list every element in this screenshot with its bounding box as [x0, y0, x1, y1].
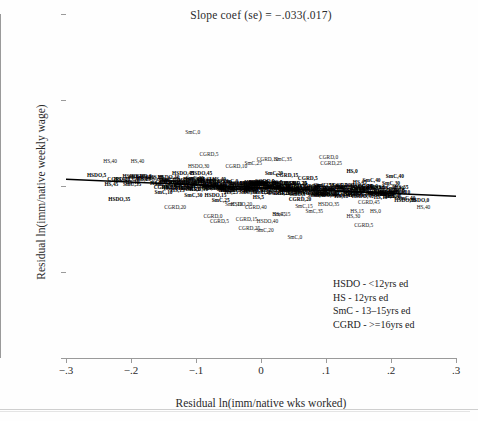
scatter-point-label: CGRD,25	[212, 184, 235, 190]
scatter-point-label: CGRD,5	[210, 219, 229, 225]
scatter-point-label: HSDO,35	[108, 197, 130, 203]
scatter-point-label: CGRD,5	[199, 152, 218, 158]
scatter-point-label: HS,40	[103, 159, 117, 165]
x-tick-label: .3	[436, 364, 476, 376]
scatter-point-label: SmC,30	[240, 187, 258, 193]
x-tick	[66, 358, 67, 363]
legend-item-hs: HS - 12yrs ed	[333, 291, 415, 305]
scatter-point-label: SmC,35	[306, 209, 324, 215]
scatter-point-label: CGRD,5	[354, 223, 373, 229]
chart-title: Slope coef (se) = −.033(.017)	[0, 9, 478, 21]
x-tick	[391, 358, 392, 363]
scatter-point-label: HS,0	[346, 169, 357, 175]
y-tick	[61, 186, 66, 187]
scatter-point-label: HS,40	[131, 159, 145, 165]
scatter-point-label: HS,40	[417, 206, 431, 212]
scatter-point-label: HS,45	[104, 183, 118, 189]
y-tick	[61, 272, 66, 273]
scatter-point-label: SmC,40	[397, 196, 415, 202]
figure-page: Slope coef (se) = −.033(.017) Residual l…	[0, 0, 478, 421]
scatter-point-label: SmC,40	[250, 182, 268, 188]
scatter-point-label: SmC,30	[184, 194, 202, 200]
scatter-point-label: HS,30	[346, 214, 360, 220]
scatter-point-label: SmC,35	[123, 182, 141, 188]
scatter-point-label: SmC,25	[244, 161, 262, 167]
legend-item-cgrd: CGRD - >=16yrs ed	[333, 318, 415, 332]
x-tick	[326, 358, 327, 363]
scatter-point-label: CGRD,25	[320, 161, 342, 167]
x-axis-label: Residual ln(imm/native wks worked)	[66, 397, 456, 409]
scatter-point-label: SmC,0	[185, 130, 200, 136]
scatter-point-label: HS,40	[114, 177, 128, 183]
scatter-point-label: SmC,0	[303, 185, 318, 191]
x-tick-label: −.2	[111, 364, 151, 376]
x-tick-label: .2	[371, 364, 411, 376]
scatter-point-label: HSDO,30	[315, 193, 337, 199]
scatter-point-label: SmC,0	[287, 235, 302, 241]
x-tick	[131, 358, 132, 363]
scatter-point-label: SmC,20	[256, 228, 274, 234]
x-tick-label: .1	[306, 364, 346, 376]
scatter-point-label: SmC,35	[160, 177, 178, 183]
scatter-point-label: CGRD,35	[165, 184, 188, 190]
scatter-point-label: SmC,10	[225, 202, 243, 208]
scatter-point-label: CGRD,15	[276, 173, 299, 179]
scatter-point-label: CGRD,45	[358, 200, 380, 206]
y-axis-label: Residual ln(imm/native weekly wage)	[35, 47, 47, 337]
scatter-point-label: SmC,15	[273, 212, 291, 218]
scatter-point-label: CGRD,40	[245, 206, 267, 212]
legend-item-smc: SmC - 13–15yrs ed	[333, 304, 415, 318]
page-rule	[0, 409, 478, 410]
x-tick-label: −.3	[46, 364, 86, 376]
scatter-point-label: SmC,40	[386, 175, 404, 181]
legend-item-hsdo: HSDO - <12yrs ed	[333, 277, 415, 291]
scatter-point-label: HSDO,35	[318, 202, 339, 208]
scatter-point-label: CGRD,15	[236, 218, 258, 224]
y-axis-line	[0, 14, 1, 358]
x-tick	[456, 358, 457, 363]
x-tick	[196, 358, 197, 363]
scatter-point-label: HSDO,10	[388, 190, 410, 196]
scatter-point-label: HSDO,5	[87, 173, 106, 179]
scatter-point-label: HSDO,40	[257, 219, 278, 225]
page-rule-secondary	[0, 411, 470, 412]
scatter-point-label: SmC,35	[274, 157, 292, 163]
y-tick	[61, 14, 66, 15]
x-tick	[261, 358, 262, 363]
y-tick	[61, 100, 66, 101]
legend: HSDO - <12yrs ed HS - 12yrs ed SmC - 13–…	[333, 277, 415, 331]
scatter-point-label: HSDO,30	[188, 164, 209, 170]
scatter-point-label: HS,0	[370, 209, 381, 215]
chart-title-text: Slope coef (se) = −.033(.017)	[190, 9, 331, 21]
scatter-point-label: CGRD,20	[164, 206, 186, 212]
scatter-point-label: SmC,35	[353, 191, 371, 197]
x-tick-label: 0	[241, 364, 281, 376]
x-tick-label: −.1	[176, 364, 216, 376]
scatter-point-label: HS,10	[328, 188, 342, 194]
